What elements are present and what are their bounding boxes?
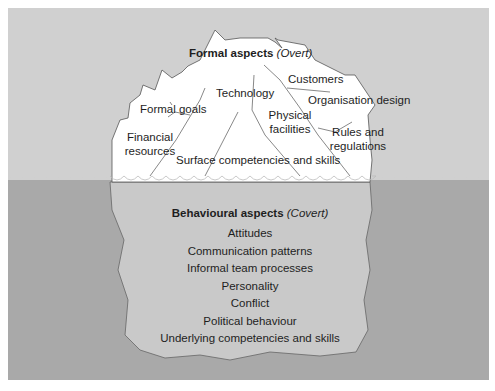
label-physical: Physical <box>262 108 318 122</box>
behavioural-aspects-title: Behavioural aspects (Covert) <box>140 206 360 220</box>
label-financial: Financial <box>120 130 180 144</box>
behavioural-aspects-title-bold: Behavioural aspects <box>172 207 284 219</box>
list-item: Informal team processes <box>150 260 350 278</box>
label-facilities: facilities <box>262 122 318 136</box>
behavioural-aspects-list: Attitudes Communication patterns Informa… <box>150 225 350 348</box>
label-surface-competencies: Surface competencies and skills <box>176 153 340 167</box>
list-item: Political behaviour <box>150 313 350 331</box>
formal-aspects-title-italic: (Overt) <box>277 47 313 59</box>
label-rules-and: Rules and <box>328 125 388 139</box>
label-regulations: regulations <box>328 139 388 153</box>
label-resources: resources <box>120 144 180 158</box>
label-formal-goals: Formal goals <box>140 102 206 116</box>
label-organisation-design: Organisation design <box>308 93 410 107</box>
list-item: Communication patterns <box>150 243 350 261</box>
behavioural-aspects-title-italic: (Covert) <box>287 207 329 219</box>
list-item: Underlying competencies and skills <box>150 330 350 348</box>
label-technology: Technology <box>216 86 274 100</box>
iceberg-diagram: Formal aspects (Overt) Customers Technol… <box>0 0 495 391</box>
label-customers: Customers <box>288 72 344 86</box>
list-item: Conflict <box>150 295 350 313</box>
list-item: Attitudes <box>150 225 350 243</box>
list-item: Personality <box>150 278 350 296</box>
formal-aspects-title: Formal aspects (Overt) <box>189 46 312 60</box>
formal-aspects-title-bold: Formal aspects <box>189 47 273 59</box>
